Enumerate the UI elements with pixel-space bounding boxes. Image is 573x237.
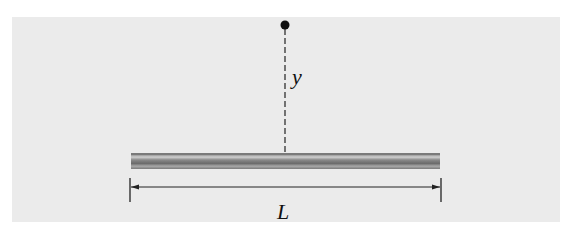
rod (131, 153, 440, 169)
arrowhead-left-icon (131, 185, 139, 190)
distance-label: y (292, 66, 302, 88)
point-mass (281, 21, 290, 30)
arrowhead-right-icon (432, 185, 440, 190)
length-label: L (277, 201, 289, 223)
